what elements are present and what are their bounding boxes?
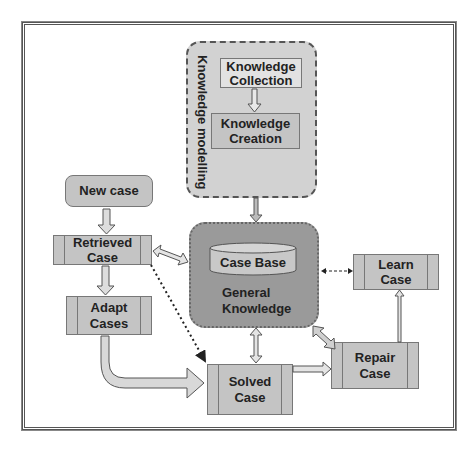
arrow-modelling-to-kb (250, 198, 262, 222)
arrow-adapt-to-solved (101, 336, 204, 398)
arrow-kb-learn-dashed (321, 268, 353, 274)
arrow-retrieved-kb-bidirectional (153, 245, 188, 265)
arrow-kb-repair-bidirectional (313, 326, 335, 349)
arrow-repair-to-learn (395, 290, 404, 342)
arrow-retrieved-to-adapt (97, 266, 114, 295)
arrow-collection-to-creation (248, 89, 261, 112)
arrow-retrieved-to-solved-dotted (151, 265, 205, 361)
arrow-kb-solved-bidirectional (250, 328, 262, 363)
arrow-solved-to-repair (293, 362, 331, 376)
connector-arrows (0, 0, 474, 449)
arrow-newcase-to-retrieved (98, 209, 115, 234)
